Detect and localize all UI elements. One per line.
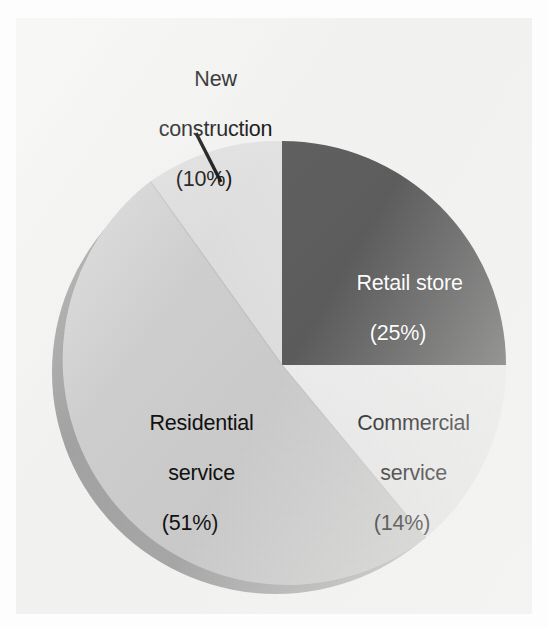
pie-slices: [63, 141, 506, 585]
pie-slice-retail-store[interactable]: [282, 141, 506, 365]
pie-chart-canvas: [0, 0, 548, 627]
pie-chart-figure: New construction (10%) Retail store (25%…: [0, 0, 548, 627]
